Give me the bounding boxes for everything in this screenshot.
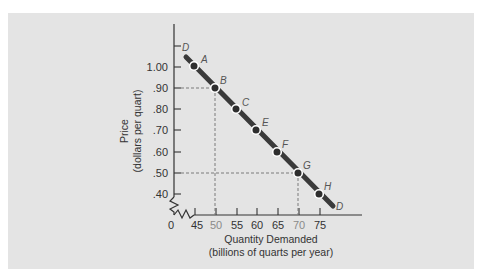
x-tick-55: 55 [231, 219, 243, 231]
y-tick-.50: .50 [153, 167, 168, 179]
label-f: F [282, 139, 289, 150]
label-b: B [220, 75, 227, 86]
y-axis-title: Price (dollars per quart) [118, 90, 143, 173]
x-tick-75: 75 [314, 219, 326, 231]
point-labels: A B C E F G H D D [182, 42, 343, 212]
demand-chart: 1.00 .90 .80 .70 .60 .50 .40 0 45 50 55 … [0, 0, 481, 276]
x-tick-45: 45 [191, 219, 203, 231]
x-tick-65: 65 [272, 219, 284, 231]
y-tick-.70: .70 [153, 124, 168, 136]
point-a [190, 62, 199, 71]
label-g: G [303, 160, 311, 171]
point-c [232, 105, 241, 114]
x-subtitle: (billions of quarts per year) [209, 246, 333, 258]
x-axis [174, 210, 362, 218]
label-h: H [324, 181, 332, 192]
y-tick-1.00: 1.00 [147, 61, 168, 73]
curve-label-end: D [336, 201, 343, 212]
point-f [273, 148, 282, 157]
origin-label: 0 [168, 219, 174, 231]
x-axis-title: Quantity Demanded (billions of quarts pe… [209, 233, 333, 258]
x-tick-70: 70 [293, 219, 305, 231]
y-subtitle: (dollars per quart) [131, 90, 143, 173]
curve-label-start: D [182, 42, 189, 53]
y-tick-.90: .90 [153, 82, 168, 94]
point-g [294, 169, 303, 178]
y-tick-labels: 1.00 .90 .80 .70 .60 .50 .40 [147, 61, 168, 200]
point-h [315, 190, 324, 199]
y-tick-.40: .40 [153, 188, 168, 200]
x-title: Quantity Demanded [224, 233, 318, 245]
y-tick-.80: .80 [153, 103, 168, 115]
y-title: Price [118, 119, 130, 143]
label-c: C [242, 97, 250, 108]
x-tick-50: 50 [210, 219, 222, 231]
label-a: A [200, 54, 208, 65]
x-ticks [195, 208, 320, 215]
label-e: E [262, 117, 269, 128]
y-ticks [174, 46, 181, 194]
point-b [211, 84, 220, 93]
y-axis [170, 24, 178, 215]
x-tick-labels: 0 45 50 55 60 65 70 75 [168, 219, 326, 231]
y-tick-.60: .60 [153, 146, 168, 158]
x-tick-60: 60 [251, 219, 263, 231]
point-e [252, 126, 261, 135]
